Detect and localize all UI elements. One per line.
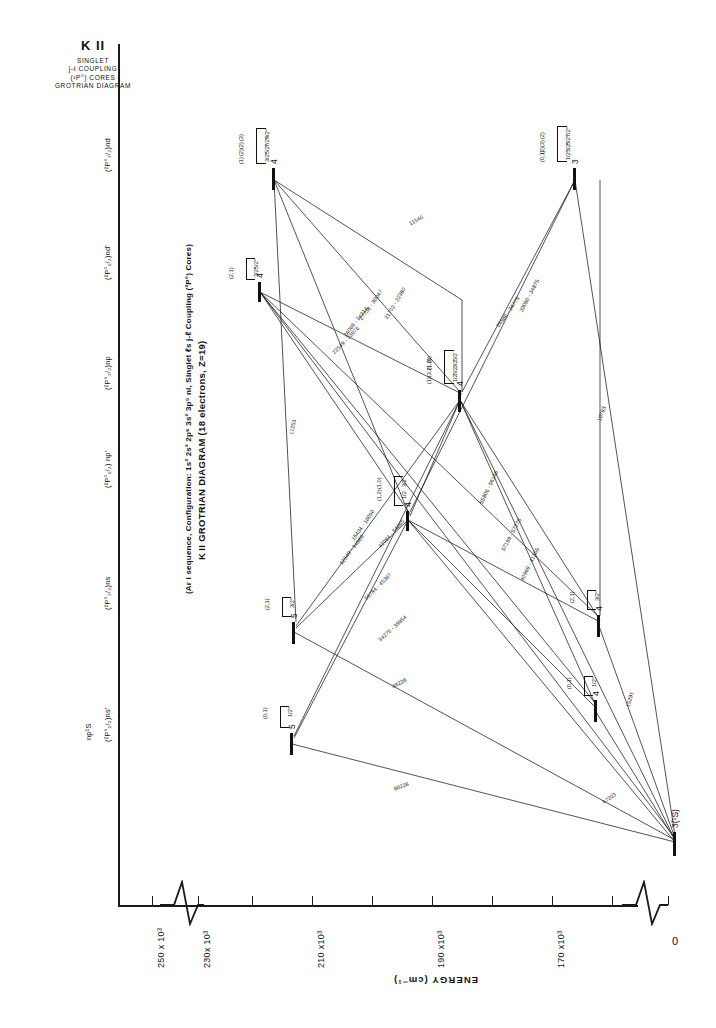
j-value: (2,1) [569, 591, 575, 603]
col-p32-ns: (²P°₃/₂)ns [103, 577, 112, 610]
j-value: (1,0) [376, 477, 382, 489]
axis-tick-label: 0 [672, 935, 678, 947]
header-line-1: j-ℓ COUPLING [28, 65, 158, 73]
j-value: (2,1) [264, 598, 270, 610]
term-symbol: 3/2° [594, 591, 600, 601]
level-bar [597, 615, 600, 637]
energy-axis-line [118, 44, 120, 906]
axis-tick-label: 210 x10³ [316, 931, 326, 968]
axis-tick [152, 896, 153, 905]
term-symbol: 3/2° [253, 267, 259, 277]
wl-42094: 42094 - 54895 [377, 518, 406, 549]
level-bar [458, 390, 461, 412]
axis-tick [312, 896, 313, 905]
wl-15291: 15291 [625, 691, 635, 707]
wl-57199: 57199 - 57275 [500, 517, 522, 552]
wl-17253: 17253 [288, 419, 297, 435]
diagram-sheet: K II SINGLET j-ℓ COUPLING (²P°) CORES GR… [0, 0, 716, 1028]
wl-11540: 11540 [408, 214, 424, 226]
axis-tick [552, 896, 553, 905]
level-bar [272, 168, 275, 190]
wl-24580: 24580 - 24775 [495, 295, 521, 328]
col-p12-nd-prime: (²P°₁/₂)nd' [103, 245, 112, 280]
axis-tick [492, 896, 493, 905]
level-bar [290, 733, 293, 755]
term-symbol: 1/2° [287, 707, 293, 717]
wl-10793: 10793 [596, 405, 607, 422]
wl-80228: 80228 [393, 781, 410, 792]
header-line-2: (²P°) CORES [28, 74, 158, 82]
wl-34275: 34275 - 39954 [377, 614, 408, 643]
wl-21702: 21702 - 22380 [383, 286, 407, 320]
j-value: (0,1) [262, 707, 268, 719]
term-symbol: 1/2° [591, 677, 597, 687]
axis-tick [668, 896, 669, 905]
level-bar [573, 168, 576, 190]
j-value: (2) [238, 142, 244, 149]
header-line-0: SINGLET [28, 57, 158, 65]
j-value: (3,2) [426, 365, 432, 377]
col-p12-np-prime: (²P°₁/₂) np' [103, 451, 112, 488]
wl-56784: 56784 - 45367 [363, 571, 393, 601]
level-n-label: 4 [269, 159, 279, 164]
wl-48226: 48226 [391, 677, 408, 690]
header-block: K II SINGLET j-ℓ COUPLING (²P°) CORES GR… [28, 38, 158, 90]
j-value: (0,1) [566, 677, 572, 689]
level-bar [258, 282, 261, 302]
term-symbol: 3/2° [289, 598, 295, 608]
term-symbol: 3/2 [401, 479, 407, 487]
level-bar [594, 700, 597, 722]
wl-47203: 47203 [601, 791, 617, 805]
j-value: (2) [539, 132, 545, 139]
wl-55806: 55806 - 56166 [478, 470, 499, 505]
axis-tick [198, 896, 199, 905]
j-value: (0,1) [539, 150, 545, 162]
j-value: (3) [238, 134, 244, 141]
j-value: (2,1) [228, 267, 234, 279]
axis-tick-label: 170 x10³ [556, 931, 566, 968]
col-p32-np: (²P°₃/₂)np [103, 356, 112, 390]
axis-tick [372, 896, 373, 905]
term-symbol: 1/2° [565, 149, 571, 159]
j-value: (3) [539, 140, 545, 147]
page-title: K II GROTRIAN DIAGRAM (18 electrons, Z=1… [196, 340, 207, 560]
j-value: (1) [426, 377, 432, 384]
wl-40969: 40969 - 41355 [519, 547, 540, 582]
j-value: (2) [238, 149, 244, 156]
j-value: (1) [238, 157, 244, 164]
axis-tick-label: 190 x10³ [436, 931, 446, 968]
col-np-S: np¹S [84, 723, 93, 740]
axis-tick-label: 230x 10³ [202, 931, 212, 968]
j-value: (1,2) [376, 489, 382, 501]
level-n-label: 4 [403, 502, 413, 507]
level-n-label: 3(¹S) [670, 809, 680, 828]
col-p32-nd: (²P°₃/₂)nd [103, 138, 112, 172]
axis-tick-label: 250 x 10³ [156, 928, 166, 968]
element-label: K II [28, 38, 158, 54]
level-bar [292, 622, 295, 644]
term-symbol: 1/2 [401, 491, 407, 499]
axis-tick [432, 896, 433, 905]
level-n-label: 3 [570, 159, 580, 164]
wl-33000: 33060 - 34875 [518, 278, 540, 313]
axis-tick [612, 896, 613, 905]
axis-tick [252, 896, 253, 905]
col-p12-ns-prime: (²P°₁/₂)ns' [103, 707, 112, 742]
term-symbol: 1/2 [452, 374, 458, 382]
axis-break-icon-right [622, 880, 668, 926]
axis-label: ENERGY (cm⁻¹) [393, 975, 478, 986]
level-bar [406, 511, 409, 531]
level-bar [673, 832, 676, 856]
page-subtitle: (Ar I sequence, Configuration: 1s² 2s² 2… [184, 244, 193, 594]
header-line-3: GROTRIAN DIAGRAM [28, 82, 158, 90]
term-symbol: 3/2° [264, 151, 270, 161]
